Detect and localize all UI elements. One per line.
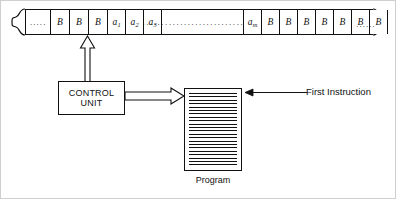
tape-cell-blank-6: B bbox=[298, 10, 316, 34]
figure-canvas: ····· B B B a1 a2 a3 ···················… bbox=[0, 0, 396, 199]
tape-cell-am-subscript: m bbox=[253, 21, 258, 28]
tape-cell-a1-symbol: a bbox=[113, 17, 118, 27]
tape-cell-blank-7: B bbox=[316, 10, 334, 34]
tape-cell-am: am bbox=[244, 10, 262, 34]
input-tape: ····· B B B a1 a2 a3 ···················… bbox=[11, 9, 387, 35]
tape-cell-blank-4: B bbox=[262, 10, 280, 34]
control-unit-to-tape-arrow bbox=[79, 35, 96, 83]
tape-cell-a2-subscript: 2 bbox=[136, 21, 139, 28]
tape-cell-blank-5: B bbox=[280, 10, 298, 34]
tape-cell-am-symbol: a bbox=[248, 17, 253, 27]
first-instruction-label: First Instruction bbox=[306, 86, 371, 97]
tape-cell-left-ellipsis: ····· bbox=[26, 10, 51, 34]
tape-cell-blank-8: B bbox=[334, 10, 352, 34]
program-document bbox=[184, 88, 242, 171]
tape-left-edge-brace bbox=[11, 8, 26, 36]
tape-cell-blank-1: B bbox=[51, 10, 70, 34]
tape-cell-blank-2: B bbox=[70, 10, 89, 34]
control-unit-to-program-arrow bbox=[125, 87, 185, 105]
control-unit-label-line2: UNIT bbox=[81, 98, 103, 108]
tape-cell-a2-symbol: a bbox=[131, 17, 136, 27]
tape-cell-a1-subscript: 1 bbox=[118, 21, 121, 28]
tape-right-ellipsis-text: ······ bbox=[356, 22, 376, 31]
tape-cell-blank-3: B bbox=[89, 10, 108, 34]
tape-body: ····· B B B a1 a2 a3 ···················… bbox=[25, 9, 373, 35]
tape-cell-a1: a1 bbox=[108, 10, 126, 34]
first-instruction-pointer-arrow bbox=[244, 87, 307, 98]
tape-cell-middle-ellipsis: ································ bbox=[162, 10, 244, 34]
program-label: Program bbox=[184, 175, 242, 185]
program-document-text-lines bbox=[189, 93, 237, 166]
control-unit-box: CONTROL UNIT bbox=[58, 81, 125, 115]
control-unit-label-line1: CONTROL bbox=[69, 88, 114, 98]
